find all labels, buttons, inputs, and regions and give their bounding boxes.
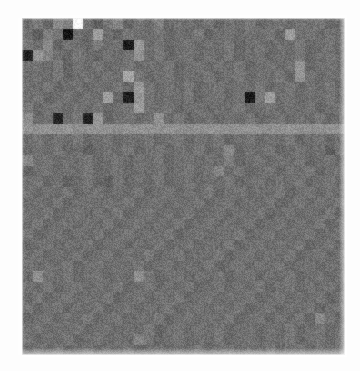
heatmap-plot-area bbox=[22, 18, 345, 355]
figure-container bbox=[0, 0, 360, 371]
heatmap-canvas bbox=[22, 18, 345, 355]
figure-caption bbox=[22, 357, 345, 369]
